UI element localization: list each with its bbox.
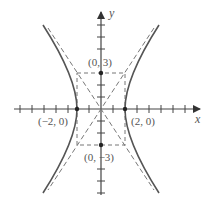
label-0-3: (0, 3) [88,56,112,69]
point-0-3 [99,71,103,75]
y-axis-label: y [108,6,115,20]
label-2-0: (2, 0) [131,115,155,128]
label-neg2-0: (−2, 0) [38,115,68,128]
label-0-neg3: (0, −3) [84,151,114,164]
y-axis: y [97,6,115,195]
x-axis-label: x [194,112,201,126]
hyperbola-diagram: x y [0,0,212,211]
vertex-left [75,107,79,111]
vertex-right [123,107,127,111]
point-0-neg3 [99,143,103,147]
